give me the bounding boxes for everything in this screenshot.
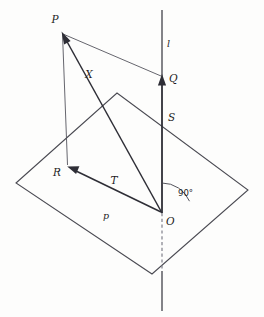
label-point-r: R [52, 166, 61, 178]
label-right-angle: 90° [178, 188, 193, 198]
vector-o-to-q [158, 74, 166, 213]
plane-p-outline [16, 93, 248, 274]
label-point-s: S [168, 111, 175, 123]
label-vector-x: X [84, 68, 93, 80]
label-point-o: O [166, 215, 175, 227]
connectors [63, 34, 162, 165]
segment-pq [63, 34, 161, 76]
label-line-l: l [167, 38, 170, 49]
geometry-diagram: P Q S O R X T l p 90° [0, 0, 264, 317]
label-plane-p: p [103, 210, 109, 221]
label-point-q: Q [169, 72, 178, 85]
segment-pr [63, 34, 68, 165]
vector-x-shaft [65, 38, 162, 213]
plane-p [16, 93, 248, 274]
vector-t-arrowhead [67, 166, 79, 174]
figure-canvas: P Q S O R X T l p 90° [0, 0, 264, 317]
label-point-p: P [50, 13, 59, 25]
label-vector-t: T [110, 174, 118, 186]
diagram-labels: P Q S O R X T l p 90° [50, 13, 193, 227]
vector-oq-arrowhead [158, 74, 166, 86]
